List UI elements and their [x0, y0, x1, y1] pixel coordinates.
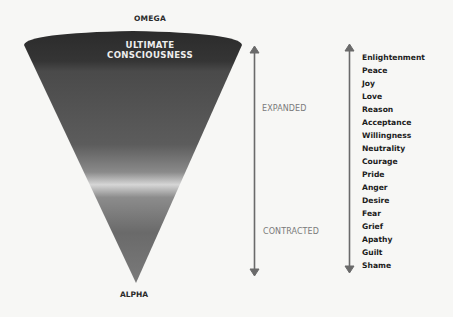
- level-item: Shame: [362, 259, 425, 272]
- level-item: Willingness: [362, 129, 425, 142]
- level-item: Acceptance: [362, 116, 425, 129]
- level-item: Enlightenment: [362, 51, 425, 64]
- cone-shape: [24, 31, 242, 283]
- expanded-contracted-arrow: [250, 46, 259, 276]
- alpha-label: ALPHA: [104, 290, 164, 299]
- cone-title-line2: CONSCIOUSNESS: [80, 50, 220, 60]
- level-item: Pride: [362, 168, 425, 181]
- level-item: Reason: [362, 103, 425, 116]
- level-item: Neutrality: [362, 142, 425, 155]
- levels-scale-arrow: [345, 44, 354, 273]
- level-item: Anger: [362, 181, 425, 194]
- level-item: Peace: [362, 64, 425, 77]
- cone-title: ULTIMATE CONSCIOUSNESS: [80, 40, 220, 60]
- expanded-label: EXPANDED: [262, 104, 306, 113]
- level-item: Courage: [362, 155, 425, 168]
- level-item: Grief: [362, 220, 425, 233]
- level-item: Guilt: [362, 246, 425, 259]
- level-item: Desire: [362, 194, 425, 207]
- contracted-label: CONTRACTED: [263, 227, 319, 236]
- level-item: Fear: [362, 207, 425, 220]
- level-item: Love: [362, 90, 425, 103]
- cone-title-line1: ULTIMATE: [80, 40, 220, 50]
- level-item: Joy: [362, 77, 425, 90]
- level-item: Apathy: [362, 233, 425, 246]
- consciousness-levels-list: Enlightenment Peace Joy Love Reason Acce…: [362, 51, 425, 272]
